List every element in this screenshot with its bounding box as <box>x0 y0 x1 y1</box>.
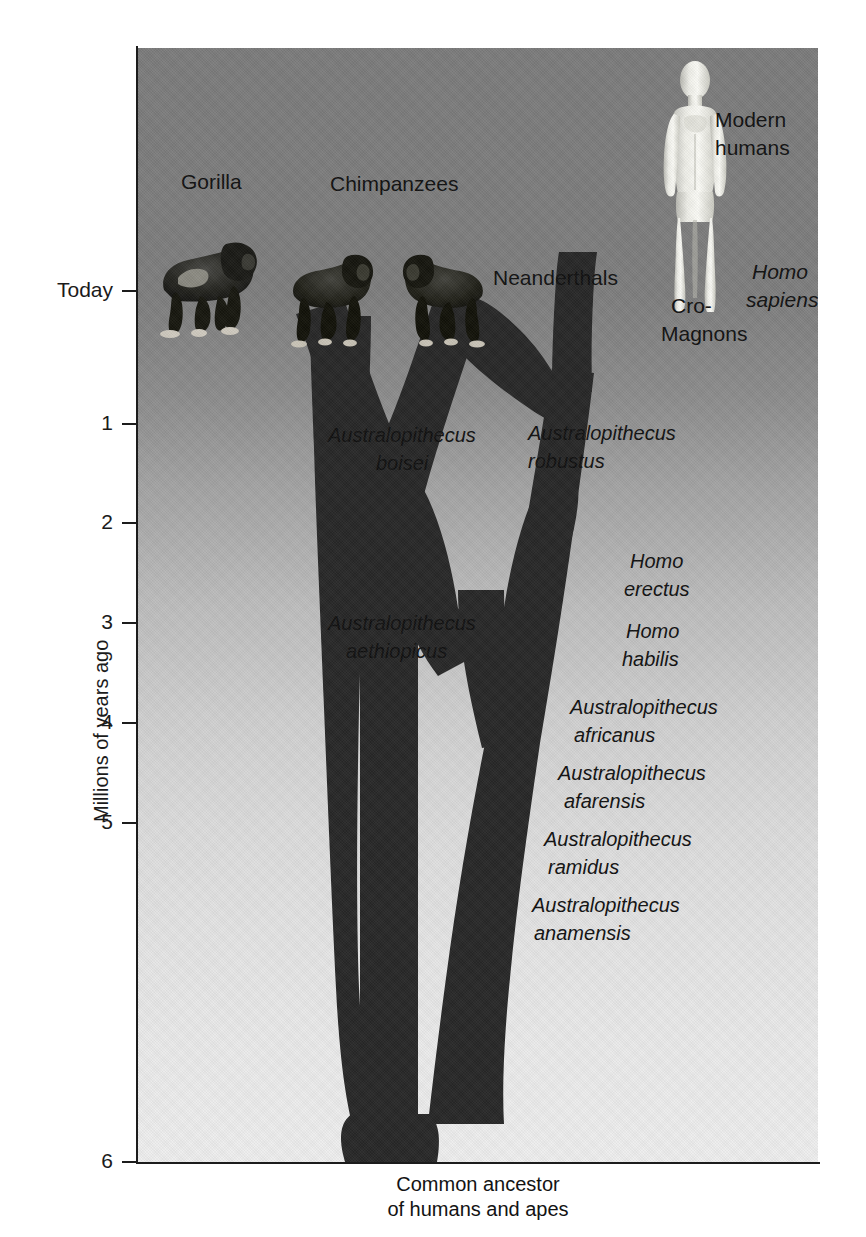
tick-mark-4 <box>122 722 138 724</box>
tick-mark-5 <box>122 822 138 824</box>
tick-mark-today <box>122 290 138 292</box>
label-australopithecus-robustus-line2: robustus <box>528 450 605 473</box>
label-homo-erectus-line2: erectus <box>624 578 690 601</box>
caption-line-1: Common ancestor <box>138 1172 818 1197</box>
label-homo-erectus-line1: Homo <box>630 550 683 573</box>
tick-mark-3 <box>122 622 138 624</box>
label-chimpanzees: Chimpanzees <box>330 172 458 196</box>
tick-mark-1 <box>122 423 138 425</box>
tick-label-2: 2 <box>0 510 113 534</box>
label-australopithecus-robustus-line1: Australopithecus <box>528 422 676 445</box>
label-neanderthals: Neanderthals <box>493 266 618 290</box>
label-australopithecus-ramidus-line2: ramidus <box>548 856 619 879</box>
label-australopithecus-afarensis-line1: Australopithecus <box>558 762 706 785</box>
label-australopithecus-anamensis-line1: Australopithecus <box>532 894 680 917</box>
label-australopithecus-africanus-line1: Australopithecus <box>570 696 718 719</box>
label-modern-humans-line1: Modern <box>715 108 786 132</box>
label-homo-sapiens-line1: Homo <box>752 260 808 284</box>
chimpanzee-right-photo <box>396 240 496 350</box>
y-axis-title: Millions of years ago <box>90 640 113 822</box>
label-australopithecus-aethiopicus-line2: aethiopicus <box>346 640 447 663</box>
chimpanzee-left-photo <box>280 240 380 350</box>
label-cro-magnons-line1: Cro- <box>671 294 712 318</box>
gorilla-photo <box>140 220 270 350</box>
tick-label-3: 3 <box>0 610 113 634</box>
label-homo-habilis-line2: habilis <box>622 648 679 671</box>
label-australopithecus-boisei-line1: Australopithecus <box>328 424 476 447</box>
label-australopithecus-afarensis-line2: afarensis <box>564 790 645 813</box>
tick-label-today: Today <box>0 278 113 302</box>
tick-label-6: 6 <box>0 1149 113 1173</box>
label-australopithecus-anamensis-line2: anamensis <box>534 922 631 945</box>
label-australopithecus-ramidus-line1: Australopithecus <box>544 828 692 851</box>
figure-caption: Common ancestor of humans and apes <box>138 1172 818 1222</box>
tick-label-1: 1 <box>0 411 113 435</box>
label-cro-magnons-line2: Magnons <box>661 322 747 346</box>
tick-mark-6 <box>122 1161 138 1163</box>
caption-line-2: of humans and apes <box>138 1197 818 1222</box>
modern-human-figure-photo <box>640 58 750 318</box>
tick-mark-2 <box>122 522 138 524</box>
label-australopithecus-boisei-line2: boisei <box>376 452 428 475</box>
label-homo-habilis-line1: Homo <box>626 620 679 643</box>
label-australopithecus-aethiopicus-line1: Australopithecus <box>328 612 476 635</box>
label-modern-humans-line2: humans <box>715 136 790 160</box>
figure-root: Gorilla Chimpanzees Neanderthals Modern … <box>0 0 866 1237</box>
label-gorilla: Gorilla <box>181 170 242 194</box>
label-homo-sapiens-line2: sapiens <box>746 288 818 312</box>
plot-area: Gorilla Chimpanzees Neanderthals Modern … <box>138 48 818 1162</box>
branch-australopithecus-robustus <box>470 466 578 674</box>
label-australopithecus-africanus-line2: africanus <box>574 724 655 747</box>
